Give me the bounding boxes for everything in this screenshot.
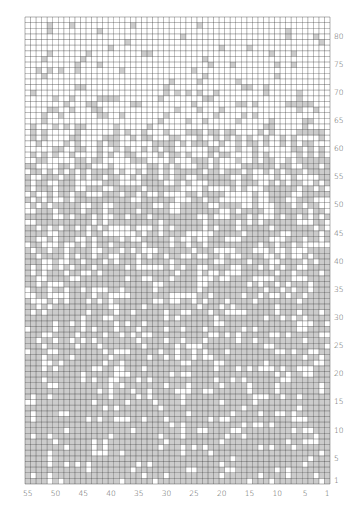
row-number-label: 25 [334, 342, 344, 350]
stitch-number-label: 20 [217, 490, 227, 498]
row-number-label: 1 [334, 477, 339, 485]
stitch-number-label: 30 [162, 490, 172, 498]
stitch-number-label: 35 [134, 490, 144, 498]
row-number-label: 5 [334, 455, 339, 463]
row-number-label: 40 [334, 258, 344, 266]
row-number-label: 60 [334, 145, 344, 153]
stitch-number-label: 15 [245, 490, 255, 498]
stitch-number-label: 25 [189, 490, 199, 498]
row-number-label: 65 [334, 117, 344, 125]
row-number-label: 50 [334, 202, 344, 210]
row-number-label: 55 [334, 174, 344, 182]
stitch-number-label: 45 [78, 490, 88, 498]
row-number-label: 45 [334, 230, 344, 238]
row-number-label: 15 [334, 399, 344, 407]
knitting-chart: 80757065605550454035302520151051 5550454… [0, 0, 356, 512]
chart-grid [0, 0, 356, 512]
stitch-number-label: 50 [51, 490, 61, 498]
row-number-label: 20 [334, 371, 344, 379]
stitch-number-label: 1 [325, 490, 330, 498]
stitch-number-label: 40 [106, 490, 116, 498]
row-number-label: 75 [334, 61, 344, 69]
stitch-number-label: 5 [303, 490, 308, 498]
row-number-label: 80 [334, 33, 344, 41]
row-number-label: 35 [334, 286, 344, 294]
row-number-label: 10 [334, 427, 344, 435]
row-number-label: 30 [334, 314, 344, 322]
stitch-number-label: 55 [23, 490, 33, 498]
stitch-number-label: 10 [273, 490, 283, 498]
row-number-label: 70 [334, 89, 344, 97]
